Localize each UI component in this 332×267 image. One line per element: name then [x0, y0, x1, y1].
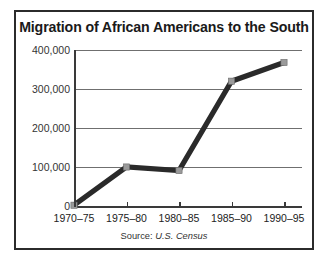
chart-title: Migration of African Americans to the So…: [14, 10, 314, 44]
y-tick-label: 100,000: [32, 161, 70, 173]
y-axis-labels: 0100,000200,000300,000400,000: [6, 50, 70, 206]
x-tick: [127, 202, 129, 207]
source-note: Source: U.S. Census: [14, 231, 314, 241]
gridline-100000: [74, 167, 302, 168]
plot-area: [74, 50, 302, 206]
x-tick: [232, 202, 234, 207]
x-tick-label: 1985–90: [211, 212, 252, 224]
x-tick-label: 1970–75: [54, 212, 95, 224]
x-tick: [179, 202, 181, 207]
y-axis-line: [74, 50, 76, 207]
source-name: U.S. Census: [155, 231, 207, 241]
x-tick-label: 1980–85: [159, 212, 200, 224]
chart-figure: Migration of African Americans to the So…: [0, 0, 332, 267]
x-tick: [284, 202, 286, 207]
gridline-200000: [74, 128, 302, 129]
y-tick-label: 300,000: [32, 83, 70, 95]
gridline-400000: [74, 50, 302, 51]
y-tick-label: 0: [64, 200, 70, 212]
x-tick-label: 1975–80: [106, 212, 147, 224]
x-tick-label: 1990–95: [264, 212, 305, 224]
y-tick-label: 400,000: [32, 44, 70, 56]
source-prefix: Source:: [121, 231, 153, 241]
x-axis-line: [74, 206, 302, 208]
y-tick-label: 200,000: [32, 122, 70, 134]
gridline-300000: [74, 89, 302, 90]
x-tick: [74, 202, 76, 207]
